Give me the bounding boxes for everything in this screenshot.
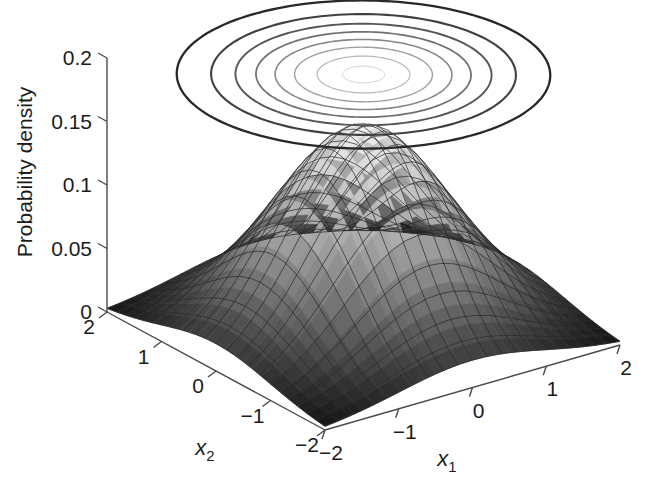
ztick-label-2: 0.1: [63, 173, 92, 196]
x2tick-label-4: −2: [295, 433, 319, 456]
ztick-label-4: 0.2: [63, 46, 92, 69]
x2tick-label-3: −1: [241, 404, 265, 427]
x2tick-label-1: 1: [138, 345, 150, 368]
contour-ring: [342, 66, 384, 83]
ztick-label-1: 0.05: [51, 237, 92, 260]
axis-tick: [154, 342, 162, 348]
axis-tick: [98, 180, 107, 185]
contour-ring: [256, 32, 471, 117]
x2tick-label-0: 2: [83, 315, 95, 338]
zaxis-title: Probability density: [13, 86, 36, 257]
x1tick-label-2: 0: [473, 399, 485, 422]
x2-axis-title: x2: [194, 435, 214, 464]
ztick-label-3: 0.15: [51, 110, 92, 133]
axis-tick: [98, 244, 107, 249]
axis-tick: [208, 371, 216, 377]
x1tick-label-1: −1: [393, 420, 417, 443]
surface-plot: 00.050.10.150.2Probability density210−1−…: [0, 0, 665, 499]
axis-tick: [98, 53, 107, 58]
x1-axis-title: x1: [436, 446, 456, 475]
figure-canvas: 00.050.10.150.2Probability density210−1−…: [0, 0, 665, 499]
x1tick-label-4: 2: [620, 356, 632, 379]
axis-tick: [99, 312, 107, 318]
axis-tick: [98, 117, 107, 122]
x1tick-label-3: 1: [546, 377, 558, 400]
axis-tick: [98, 307, 107, 312]
contour-ring: [295, 47, 433, 102]
x2tick-label-2: 0: [192, 374, 204, 397]
contour-ring: [317, 56, 410, 93]
x1tick-label-0: −2: [319, 441, 343, 464]
contour-ring: [275, 39, 452, 109]
